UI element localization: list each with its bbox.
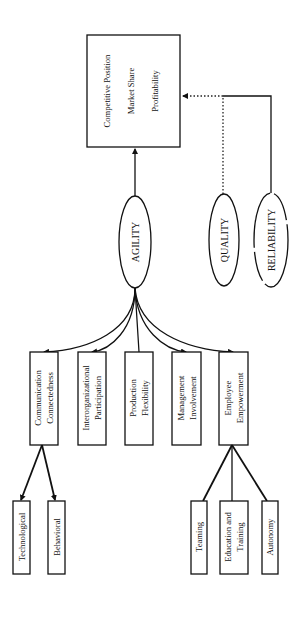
reliability-label: RELIABILITY: [266, 209, 277, 271]
agility-fan-connectors: [44, 288, 233, 352]
subfactor-autonomy: Autonomy: [262, 501, 278, 574]
reliability-connector-line: [223, 96, 271, 193]
factor-label-line2: Involvement: [188, 376, 198, 420]
factor-label-line1: Employee: [223, 380, 233, 415]
factor-management-involvement: Management Involvement: [172, 352, 201, 445]
subfactor-technological: Technological: [13, 501, 30, 574]
factor-label-line1: Interorganizational: [81, 365, 91, 431]
factor-interorganizational-participation: Interorganizational Participation: [78, 352, 106, 445]
quality-label: QUALITY: [219, 218, 230, 262]
quality-node: QUALITY: [209, 194, 239, 286]
quality-to-outcome-dotted-arrow: [183, 96, 223, 194]
empowerment-subfactor-lines: [203, 445, 267, 501]
agility-model-diagram: Competitive Position Market Share Profit…: [0, 0, 303, 620]
subfactor-teaming: Teaming: [191, 501, 207, 574]
outcome-line-market-share: Market Share: [126, 68, 136, 115]
communication-subfactor-arrows: [21, 445, 55, 500]
factor-label-line2: Empowerment: [235, 372, 245, 423]
subfactor-education-and-training: Education and Training: [220, 501, 248, 574]
subfactor-label-line1: Education and: [223, 512, 233, 562]
subfactor-label: Technological: [17, 512, 27, 561]
outcome-box: Competitive Position Market Share Profit…: [87, 35, 180, 147]
factor-label-line2: Participation: [93, 375, 103, 420]
reliability-node: RELIABILITY: [254, 193, 288, 287]
subfactor-label: Behavioral: [52, 518, 62, 556]
factor-label-line1: Production: [128, 378, 138, 416]
factor-label-line1: Management: [176, 375, 186, 420]
outcome-line-competitive-position: Competitive Position: [102, 54, 112, 128]
agility-label: AGILITY: [130, 222, 141, 263]
factor-employee-empowerment: Employee Empowerment: [219, 352, 248, 445]
subfactor-label-line2: Training: [235, 522, 245, 552]
factor-label-line1: Communication: [33, 370, 43, 426]
subfactor-label: Autonomy: [265, 518, 275, 555]
factor-label-line2: Connectedness: [45, 372, 55, 424]
subfactor-behavioral: Behavioral: [48, 501, 65, 574]
factor-label-line2: Flexibility: [140, 379, 150, 416]
factor-communication-connectedness: Communication Connectedness: [30, 352, 58, 445]
subfactor-label: Teaming: [194, 521, 204, 552]
factor-production-flexibility: Production Flexibility: [125, 352, 153, 445]
agility-node: AGILITY: [119, 196, 151, 288]
outcome-line-profitability: Profitability: [150, 70, 160, 112]
